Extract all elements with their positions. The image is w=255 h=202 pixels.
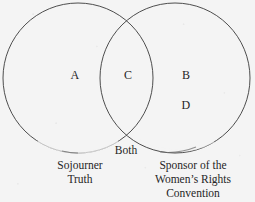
right-set-caption-line-3: Convention — [140, 186, 246, 200]
intersection-caption-line: Both — [104, 143, 148, 157]
venn-diagram-figure: A C B D Both Sojourner Truth Sponsor of … — [0, 0, 255, 202]
region-label-d: D — [176, 99, 196, 111]
region-label-a: A — [65, 69, 85, 81]
right-set-caption-line-1: Sponsor of the — [140, 158, 246, 172]
right-set-caption-line-2: Women’s Rights — [140, 172, 246, 186]
region-label-b: B — [176, 69, 196, 81]
left-set-caption-line-1: Sojourner — [30, 158, 130, 172]
region-label-c: C — [118, 69, 138, 81]
left-set-caption-line-2: Truth — [30, 172, 130, 186]
left-set-caption: Sojourner Truth — [30, 158, 130, 186]
right-set-caption: Sponsor of the Women’s Rights Convention — [140, 158, 246, 200]
intersection-caption: Both — [104, 143, 148, 157]
